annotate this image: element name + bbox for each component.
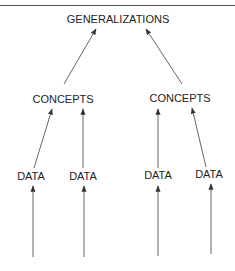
data-label-3: DATA [144,169,172,181]
data-label-1: DATA [17,170,45,182]
generalizations-label: GENERALIZATIONS [67,13,169,25]
hierarchy-diagram [0,0,235,271]
arrow-data4-to-concept2 [192,108,206,167]
arrow-concept2-to-generalizations [146,29,182,84]
concepts-label-left: CONCEPTS [32,93,93,105]
concepts-label-right: CONCEPTS [149,92,210,104]
arrow-data1-to-concept1 [34,109,52,168]
data-label-2: DATA [69,170,97,182]
data-label-4: DATA [195,168,223,180]
arrow-concept1-to-generalizations [64,29,96,84]
